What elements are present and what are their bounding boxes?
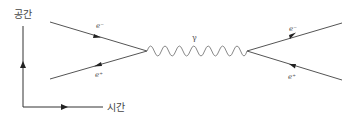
space-axis-arrow-icon — [20, 61, 26, 68]
incoming-electron-label: e⁻ — [96, 22, 104, 30]
incoming-electron-arrow-icon — [93, 34, 101, 38]
outgoing-electron-line: e⁻ — [247, 23, 342, 51]
incoming-positron-label: e⁺ — [95, 71, 103, 79]
outgoing-electron-label: e⁻ — [289, 25, 297, 33]
photon-label: γ — [192, 33, 197, 42]
time-axis-arrow-icon — [61, 104, 68, 110]
incoming-positron-line: e⁺ — [50, 51, 147, 79]
incoming-positron-arrow-icon — [94, 62, 102, 67]
space-axis-label: 공간 — [14, 9, 32, 20]
axes: 공간 시간 — [14, 9, 125, 113]
feynman-diagram: 공간 시간 e⁻ e⁺ γ e⁻ e⁺ — [0, 0, 362, 121]
outgoing-positron-arrow-icon — [289, 64, 296, 69]
photon-propagator: γ — [147, 33, 247, 56]
outgoing-positron-line: e⁺ — [247, 51, 342, 81]
time-axis-label: 시간 — [107, 102, 125, 113]
incoming-electron-line: e⁻ — [50, 22, 147, 51]
outgoing-positron-label: e⁺ — [288, 73, 296, 81]
